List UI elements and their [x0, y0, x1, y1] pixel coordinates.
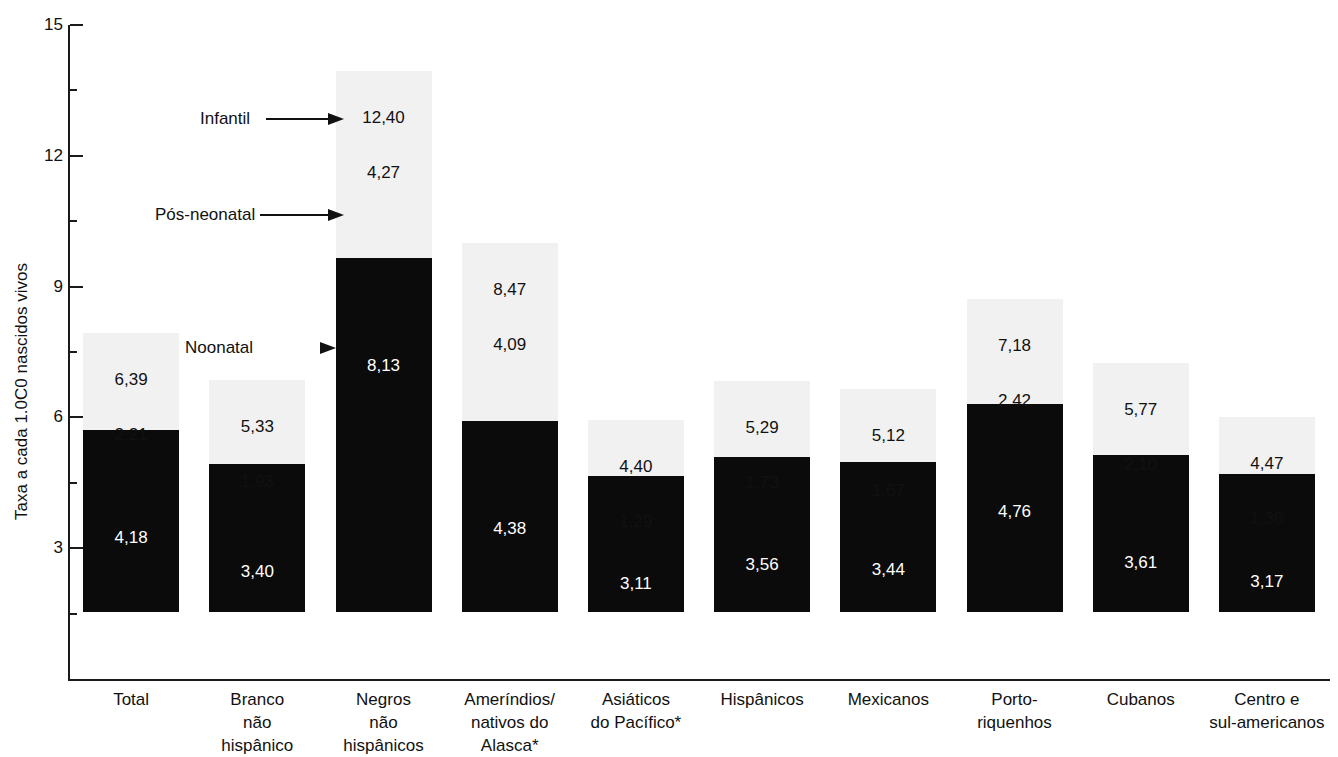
- x-axis-category-label-line: Mexicanos: [817, 688, 959, 711]
- x-axis-category-label-line: sul-americanos: [1196, 711, 1338, 734]
- y-axis-title: Taxa a cada 1.0C0 nascidos vivos: [12, 263, 32, 520]
- bar-postneonatal-value-label: 1,30: [1219, 510, 1315, 527]
- bar-stack[interactable]: [336, 71, 432, 612]
- x-axis-category-label: Cubanos: [1070, 688, 1212, 711]
- x-axis-category-label: Mexicanos: [817, 688, 959, 711]
- bar-segment-neonatal[interactable]: [1219, 474, 1315, 612]
- bar-stack[interactable]: [714, 381, 810, 612]
- bar-total-value-label: 5,29: [714, 419, 810, 436]
- bar-segment-neonatal[interactable]: [83, 430, 179, 612]
- y-axis-tick-label: 6: [23, 408, 63, 425]
- bar-total-value-label: 5,77: [1093, 401, 1189, 418]
- x-axis-category-label: Total: [60, 688, 202, 711]
- bar-postneonatal-value-label: 1,67: [840, 482, 936, 499]
- x-axis-category-label-line: hispânico: [186, 734, 328, 757]
- x-axis-category-label-line: do Pacífico*: [565, 711, 707, 734]
- bar-postneonatal-value-label: 2,42: [967, 392, 1063, 409]
- y-axis-tick-label: 15: [23, 16, 63, 33]
- bar-neonatal-value-label: 3,17: [1219, 573, 1315, 590]
- bar-neonatal-value-label: 3,61: [1093, 554, 1189, 571]
- x-axis-category-label-line: não: [312, 711, 454, 734]
- bar-total-value-label: 12,40: [336, 109, 432, 126]
- y-axis-tick-label: 3: [23, 539, 63, 556]
- bar-neonatal-value-label: 4,38: [462, 520, 558, 537]
- bar-segment-neonatal[interactable]: [336, 258, 432, 612]
- bar-total-value-label: 7,18: [967, 337, 1063, 354]
- bar-segment-neonatal[interactable]: [462, 421, 558, 612]
- bar-neonatal-value-label: 4,76: [967, 503, 1063, 520]
- x-axis-category-label-line: Porto-: [943, 688, 1085, 711]
- x-axis-category-label-line: não: [186, 711, 328, 734]
- x-axis-category-label-line: Cubanos: [1070, 688, 1212, 711]
- annotation-infantil-arrow-icon: [266, 110, 346, 130]
- y-axis-tick-label: 9: [23, 278, 63, 295]
- bar-postneonatal-value-label: 1,93: [209, 473, 305, 490]
- x-axis-category-label: Asiáticosdo Pacífico*: [565, 688, 707, 734]
- bar-total-value-label: 8,47: [462, 281, 558, 298]
- x-axis-category-label-line: nativos do: [439, 711, 581, 734]
- bar-postneonatal-value-label: 4,09: [462, 336, 558, 353]
- bar-total-value-label: 4,47: [1219, 455, 1315, 472]
- bar-neonatal-value-label: 3,44: [840, 561, 936, 578]
- x-axis-category-label-line: Negros: [312, 688, 454, 711]
- bar-neonatal-value-label: 3,11: [588, 575, 684, 592]
- bar-postneonatal-value-label: 1,73: [714, 474, 810, 491]
- x-axis-category-label-line: hispânicos: [312, 734, 454, 757]
- x-axis-category-label: Hispânicos: [691, 688, 833, 711]
- bar-total-value-label: 4,40: [588, 458, 684, 475]
- bar-neonatal-value-label: 3,40: [209, 563, 305, 580]
- x-axis-category-label-line: Hispânicos: [691, 688, 833, 711]
- x-axis-category-label-line: Asiáticos: [565, 688, 707, 711]
- x-axis-category-label-line: riquenhos: [943, 711, 1085, 734]
- bar-postneonatal-value-label: 2,21: [83, 426, 179, 443]
- annotation-neonatal-arrowhead-icon: [318, 339, 340, 359]
- plot-area: 6,392,214,185,331,933,4012,404,278,138,4…: [68, 0, 1330, 681]
- bar-total-value-label: 5,12: [840, 427, 936, 444]
- bar-neonatal-value-label: 8,13: [336, 357, 432, 374]
- bar-postneonatal-value-label: 4,27: [336, 164, 432, 181]
- y-axis-title-container: Taxa a cada 1.0C0 nascidos vivos: [0, 0, 40, 700]
- x-axis-category-label-line: Ameríndios/: [439, 688, 581, 711]
- x-axis-category-label: Branconãohispânico: [186, 688, 328, 757]
- x-axis-category-label-line: Total: [60, 688, 202, 711]
- annotation-pos-neonatal-label: Pós-neonatal: [155, 206, 255, 223]
- annotation-infantil-label: Infantil: [200, 110, 250, 127]
- x-axis-category-label: Ameríndios/nativos doAlasca*: [439, 688, 581, 757]
- bar-neonatal-value-label: 4,18: [83, 529, 179, 546]
- annotation-neonatal-label: Noonatal: [185, 339, 253, 356]
- x-axis-category-label: Centro esul-americanos: [1196, 688, 1338, 734]
- bar-total-value-label: 5,33: [209, 418, 305, 435]
- bar-segment-neonatal[interactable]: [1093, 455, 1189, 612]
- x-axis-category-label: Porto-riquenhos: [943, 688, 1085, 734]
- bar-segment-postneonatal[interactable]: [462, 243, 558, 421]
- bar-postneonatal-value-label: 1,29: [588, 513, 684, 530]
- x-axis-category-label-line: Centro e: [1196, 688, 1338, 711]
- bar-postneonatal-value-label: 2,10: [1093, 456, 1189, 473]
- bar-neonatal-value-label: 3,56: [714, 556, 810, 573]
- annotation-pos-neonatal-arrow-icon: [260, 206, 346, 226]
- x-axis-category-label: Negrosnãohispânicos: [312, 688, 454, 757]
- y-axis-tick-label: 12: [23, 147, 63, 164]
- x-axis-category-label-line: Branco: [186, 688, 328, 711]
- bar-total-value-label: 6,39: [83, 371, 179, 388]
- x-axis-category-label-line: Alasca*: [439, 734, 581, 757]
